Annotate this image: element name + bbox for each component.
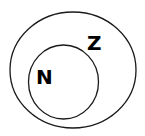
euler-diagram: Z N xyxy=(0,0,145,136)
set-z-outline xyxy=(10,12,136,128)
set-n-label: N xyxy=(36,65,53,89)
set-z-label: Z xyxy=(87,31,102,55)
